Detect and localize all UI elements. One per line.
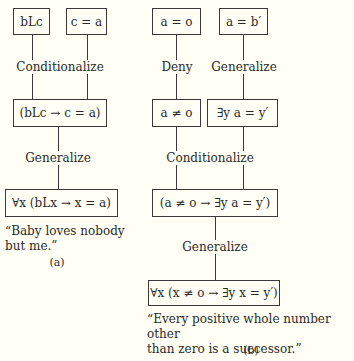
premise-box-blc: bLc: [13, 8, 50, 35]
formula-text: (a ≠ o → ∃y a = y′): [160, 196, 271, 210]
existential-box: ∃y a = y′: [207, 99, 278, 127]
premise-box-c-eq-a: c = a: [66, 8, 107, 35]
caption-line: “Every positive whole number other: [147, 312, 354, 342]
premise-text: bLc: [20, 15, 42, 29]
conclusion-box-b: ∀x (x ≠ o → ∃y x = y′): [148, 280, 280, 306]
conditional-box-b: (a ≠ o → ∃y a = y′): [152, 189, 278, 217]
premise-text: c = a: [71, 15, 103, 29]
caption-line: “Baby loves nobody: [5, 224, 125, 239]
rule-label-generalize: Generalize: [182, 240, 248, 254]
rule-label-deny: Deny: [161, 60, 192, 74]
caption-a: “Baby loves nobody but me.”: [5, 224, 125, 254]
rule-label-conditionalize: Conditionalize: [16, 60, 104, 74]
conclusion-box-a: ∀x (bLx → x = a): [5, 189, 118, 217]
rule-label-conditionalize: Conditionalize: [166, 151, 254, 165]
negation-box: a ≠ o: [152, 99, 201, 127]
formula-text: ∀x (bLx → x = a): [12, 196, 111, 210]
sublabel-a: (a): [49, 256, 64, 269]
conditional-box: (bLc → c = a): [13, 99, 107, 127]
formula-text: (bLc → c = a): [20, 106, 101, 120]
rule-label-generalize: Generalize: [211, 60, 277, 74]
premise-text: a = o: [160, 15, 192, 29]
formula-text: ∀x (x ≠ o → ∃y x = y′): [150, 286, 278, 300]
premise-box-a-eq-o: a = o: [152, 8, 201, 35]
premise-text: a = b′: [226, 15, 261, 29]
formula-text: ∃y a = y′: [217, 106, 268, 120]
sublabel-b: (b): [243, 344, 259, 357]
caption-line: but me.”: [5, 239, 125, 254]
premise-box-a-eq-b-prime: a = b′: [219, 8, 268, 35]
formula-text: a ≠ o: [160, 106, 192, 120]
rule-label-generalize: Generalize: [25, 151, 91, 165]
